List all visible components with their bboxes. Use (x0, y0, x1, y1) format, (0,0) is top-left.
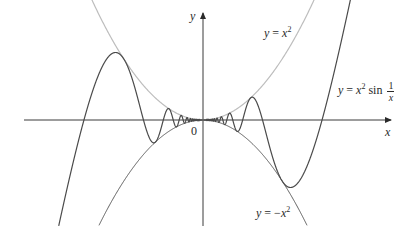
main-curve-label: y = x2 sin 1 x (338, 80, 394, 103)
label-exp: 2 (287, 25, 291, 34)
fraction-numerator: 1 (387, 80, 394, 92)
label-y: y (338, 83, 343, 97)
upper-bound-label: y = x2 (264, 27, 291, 39)
label-y: y (264, 26, 269, 40)
origin-label: 0 (191, 125, 197, 137)
label-y: y (256, 206, 261, 220)
squeeze-theorem-figure (0, 0, 410, 235)
fraction: 1 x (387, 80, 394, 103)
label-eq: = (346, 83, 353, 97)
main-curve (59, 0, 351, 226)
y-axis-label: y (190, 10, 195, 22)
label-fn: sin (368, 83, 382, 97)
lower-bound-label: y = −x2 (256, 207, 290, 219)
label-exp: 2 (361, 82, 365, 91)
label-eq: = − (264, 206, 281, 220)
label-eq: = (272, 26, 279, 40)
fraction-denominator: x (387, 92, 394, 103)
x-axis-label: x (385, 126, 390, 138)
label-exp: 2 (286, 205, 290, 214)
